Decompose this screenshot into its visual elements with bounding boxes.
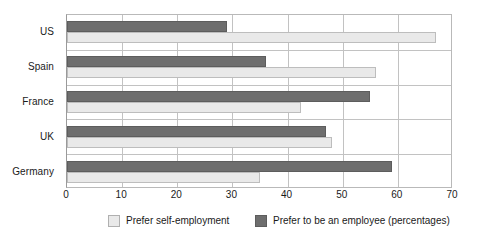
bar-self-employment-uk — [67, 137, 332, 148]
row-separator — [67, 119, 451, 120]
x-tick-label: 40 — [281, 189, 292, 201]
legend-label: Prefer self-employment — [126, 215, 229, 227]
bar-employee-france — [67, 91, 370, 102]
bar-employee-spain — [67, 56, 266, 67]
legend-swatch-icon — [255, 215, 267, 227]
category-label-us: US — [40, 26, 54, 37]
category-label-france: France — [22, 96, 54, 107]
bar-employee-uk — [67, 126, 326, 137]
legend-swatch-icon — [108, 215, 120, 227]
x-tick-label: 20 — [171, 189, 182, 201]
row-separator — [67, 154, 451, 155]
bar-chart: USSpainFranceUKGermany 010203040506070 P… — [0, 0, 486, 245]
bar-self-employment-germany — [67, 172, 260, 183]
category-label-spain: Spain — [28, 61, 54, 72]
bar-employee-us — [67, 21, 227, 32]
x-tick-label: 0 — [63, 189, 69, 201]
x-axis: 010203040506070 — [66, 189, 452, 205]
bar-self-employment-france — [67, 102, 301, 113]
bar-employee-germany — [67, 161, 392, 172]
chart-legend: Prefer self-employment Prefer to be an e… — [0, 213, 486, 235]
category-label-uk: UK — [40, 130, 54, 141]
row-separator — [67, 50, 451, 51]
category-label-germany: Germany — [12, 165, 54, 176]
legend-item-employee: Prefer to be an employee (percentages) — [255, 213, 450, 229]
x-tick-label: 50 — [336, 189, 347, 201]
x-tick-label: 10 — [116, 189, 127, 201]
bar-self-employment-spain — [67, 67, 376, 78]
category-axis: USSpainFranceUKGermany — [0, 14, 60, 188]
x-tick-label: 70 — [446, 189, 457, 201]
plot-area — [66, 14, 452, 188]
row-separator — [67, 85, 451, 86]
legend-item-self-employment: Prefer self-employment — [108, 213, 229, 229]
legend-label: Prefer to be an employee (percentages) — [273, 215, 450, 227]
bar-self-employment-us — [67, 32, 436, 43]
x-tick-label: 30 — [226, 189, 237, 201]
x-tick-label: 60 — [391, 189, 402, 201]
